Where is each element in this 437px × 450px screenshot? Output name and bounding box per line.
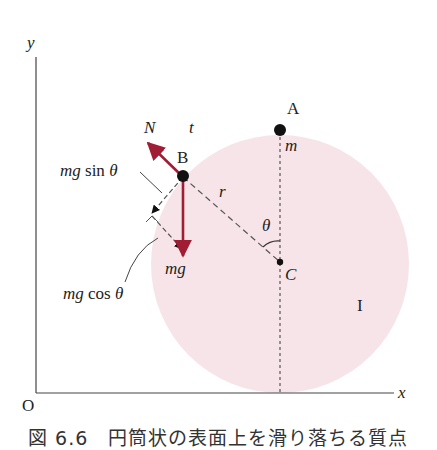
point-a-dot [274,124,286,136]
origin-label: O [22,397,34,414]
point-c-label: C [285,266,296,283]
point-b-label: B [177,149,188,166]
tangential-component-label: mg sin θ [60,162,117,179]
normal-force-label: N [144,119,155,136]
mass-label: m [285,137,297,154]
point-c-dot [277,259,283,265]
x-axis-label: x [398,384,406,401]
leader-sin [140,172,162,193]
point-b-dot [177,170,189,182]
gravity-label: mg [165,260,186,277]
tangent-label: t [189,119,194,136]
region-label: I [357,297,363,314]
right-angle-mark [146,216,158,222]
point-a-label: A [287,100,299,117]
angle-label: θ [262,217,270,234]
radius-label: r [219,183,226,200]
y-axis-label: y [27,34,35,51]
normal-component-label: mg cos θ [63,285,123,302]
figure-caption: 図 6.6 円筒状の表面上を滑り落ちる質点 [28,423,408,450]
